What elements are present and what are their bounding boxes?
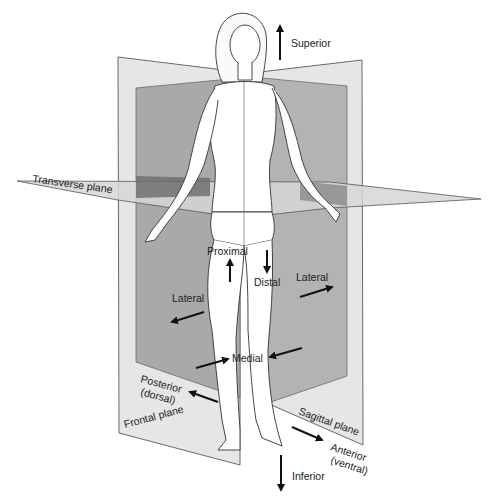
superior-label: Superior [291, 37, 331, 49]
anatomical-planes-diagram: Superior Inferior Proximal Distal Latera… [0, 0, 497, 501]
lateral-right-label: Lateral [296, 271, 328, 283]
anterior-arrow [292, 427, 322, 440]
proximal-label: Proximal [207, 245, 248, 257]
medial-label: Medial [232, 352, 263, 364]
lateral-left-label: Lateral [172, 292, 204, 304]
distal-label: Distal [254, 276, 280, 288]
inferior-label: Inferior [292, 470, 325, 482]
